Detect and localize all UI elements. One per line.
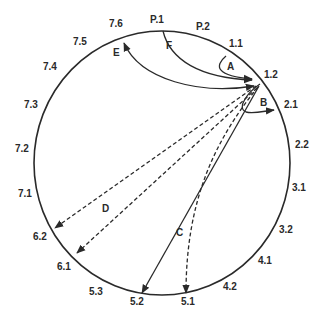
position-label-7-6: 7.6 (109, 18, 123, 29)
cycle-circle (34, 31, 290, 295)
arrow-d2 (77, 88, 257, 253)
arrow-label-e: E (113, 47, 120, 58)
position-label-7-5: 7.5 (73, 36, 87, 47)
arrow-a (219, 56, 252, 79)
position-label-7-4: 7.4 (43, 61, 57, 72)
position-label-4-1: 4.1 (258, 255, 272, 266)
arrows-layer (55, 31, 274, 293)
arrow-label-a: A (227, 61, 234, 72)
position-label-3-1: 3.1 (292, 182, 306, 193)
position-label-7-1: 7.1 (18, 188, 32, 199)
position-label-3-2: 3.2 (279, 224, 293, 235)
position-label-1-1: 1.1 (229, 38, 243, 49)
position-label-5-1: 5.1 (181, 296, 195, 307)
arrow-labels: ABCDEF (102, 40, 267, 238)
position-label-7-3: 7.3 (24, 99, 38, 110)
position-label-5-2: 5.2 (130, 296, 144, 307)
circular-transition-diagram: P.1P.21.11.22.12.23.13.24.14.25.15.25.36… (0, 0, 319, 322)
arrow-d1 (55, 86, 256, 228)
arrow-label-f: F (166, 40, 172, 51)
position-label-4-2: 4.2 (223, 281, 237, 292)
position-label-5-3: 5.3 (89, 286, 103, 297)
position-label-p-2: P.2 (196, 21, 210, 32)
position-label-2-1: 2.1 (284, 99, 298, 110)
position-labels: P.1P.21.11.22.12.23.13.24.14.25.15.25.36… (15, 14, 309, 307)
arrow-label-b: B (260, 97, 267, 108)
arrow-e (124, 43, 254, 89)
position-label-6-1: 6.1 (57, 261, 71, 272)
arrow-label-d: D (102, 203, 109, 214)
position-label-2-2: 2.2 (295, 139, 309, 150)
position-label-7-2: 7.2 (15, 143, 29, 154)
arrow-label-c: C (176, 227, 183, 238)
position-label-p-1: P.1 (150, 14, 164, 25)
position-label-1-2: 1.2 (264, 69, 278, 80)
position-label-6-2: 6.2 (33, 231, 47, 242)
